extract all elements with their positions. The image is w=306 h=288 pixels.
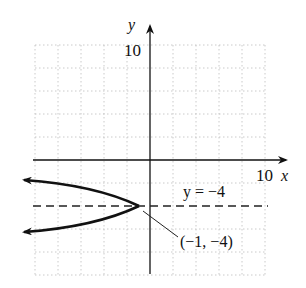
parabola-curve (24, 206, 139, 232)
graph: y 10 10 x y = −4 (−1, −4) (0, 0, 306, 288)
vertex-leader-line (143, 211, 178, 237)
vertex-label: (−1, −4) (180, 233, 233, 251)
x-max-tick-label: 10 (256, 166, 273, 185)
y-axis-label: y (126, 16, 136, 34)
y-max-tick-label: 10 (124, 41, 141, 60)
axis-of-symmetry-label: y = −4 (183, 183, 225, 201)
x-axis-label: x (280, 167, 288, 184)
parabola-curve (24, 180, 139, 206)
